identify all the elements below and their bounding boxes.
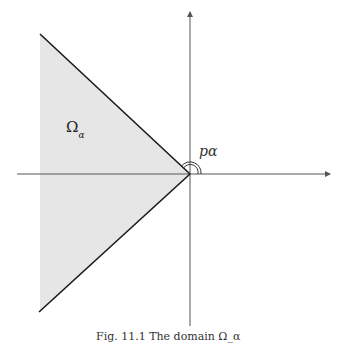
region-label: Ωα <box>66 118 85 138</box>
figure-caption: Fig. 11.1 The domain Ω_α <box>96 330 240 343</box>
angle-label: pα <box>199 143 217 159</box>
shaded-region <box>40 34 190 312</box>
